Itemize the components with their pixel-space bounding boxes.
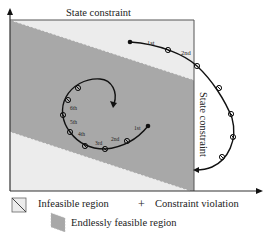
legend-violation-label: Constraint violation [155,198,239,209]
right-constraint-label: State constraint [198,92,209,157]
inner-label-5th: 5th [70,119,77,125]
legend-feasible-label: Endlessly feasible region [71,217,177,228]
constraint-diagram: State constraint State constraint 1st 2n… [0,0,273,247]
outer-label-2nd: 2nd [181,49,192,56]
x-axis-arrow-icon [256,188,263,194]
legend-infeasible-label: Infeasible region [38,198,109,209]
outer-start-point [128,40,133,45]
outer-label-1st: 1st [147,39,155,46]
cut-off-caption [0,241,273,247]
legend-violation-symbol: + [138,197,145,212]
top-constraint-label: State constraint [66,7,131,18]
y-axis-arrow-icon [7,8,13,15]
inner-start-point [146,124,151,129]
infeasible-legend-swatch [12,198,26,212]
inner-label-6th: 6th [70,105,77,111]
inner-label-4th: 4th [78,131,85,137]
inner-label-3rd: 3rd [95,140,103,146]
inner-label-2nd: 2nd [111,136,120,142]
inner-label-1st: 1st [134,125,141,131]
feasible-legend-swatch [51,213,65,232]
